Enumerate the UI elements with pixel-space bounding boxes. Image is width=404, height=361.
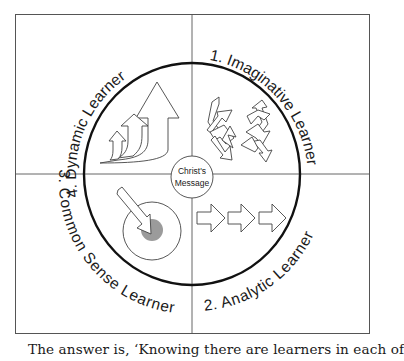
target-arrow-icon — [117, 187, 181, 260]
center-message: Christ's Message — [171, 156, 213, 198]
center-line2: Message — [175, 178, 210, 188]
sequential-arrows-icon — [197, 204, 286, 232]
center-line1: Christ's — [178, 166, 206, 176]
tangled-arrows-icon — [207, 97, 272, 162]
body-text: The answer is, ‘Knowing there are learne… — [28, 341, 388, 357]
rising-arrows-icon — [100, 82, 179, 163]
label-analytic-learner: 2. Analytic Learner — [203, 228, 317, 314]
